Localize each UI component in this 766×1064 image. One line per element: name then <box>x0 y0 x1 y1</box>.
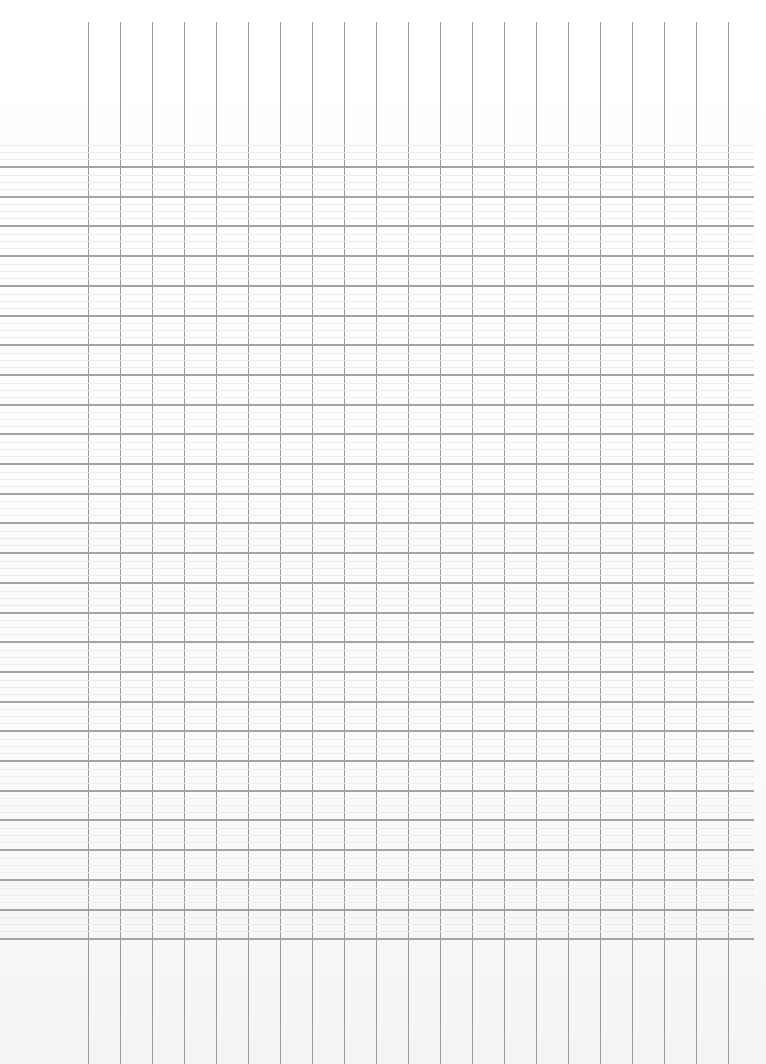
bleed-through-line <box>0 902 754 903</box>
bleed-through-line <box>0 776 754 777</box>
grid-column-line <box>504 22 505 1064</box>
bleed-through-line <box>0 353 754 354</box>
bleed-through-line <box>0 561 754 562</box>
bleed-through-line <box>0 308 754 309</box>
bleed-through-line <box>0 301 754 302</box>
bleed-through-line <box>0 657 754 658</box>
grid-row-line <box>0 255 754 257</box>
bleed-through-line <box>0 248 754 249</box>
bleed-through-line <box>0 650 754 651</box>
bleed-through-line <box>0 753 754 754</box>
bleed-through-line <box>0 842 754 843</box>
grid-column-line <box>248 22 249 1064</box>
bleed-through-line <box>0 872 754 873</box>
bleed-through-line <box>0 924 754 925</box>
grid-row-line <box>0 433 754 435</box>
bleed-through-line <box>0 449 754 450</box>
grid-column-line <box>536 22 537 1064</box>
bleed-through-line <box>0 798 754 799</box>
bleed-through-line <box>0 634 754 635</box>
grid-column-line <box>184 22 185 1064</box>
bleed-through-line <box>0 182 754 183</box>
bleed-through-line <box>0 218 754 219</box>
grid-column-line <box>600 22 601 1064</box>
bleed-through-line <box>0 746 754 747</box>
bleed-through-line <box>0 709 754 710</box>
grid-row-line <box>0 582 754 584</box>
grid-column-line <box>664 22 665 1064</box>
bleed-through-line <box>0 337 754 338</box>
grid-row-line <box>0 166 754 168</box>
bleed-through-line <box>0 294 754 295</box>
bleed-through-line <box>0 145 754 146</box>
bleed-through-line <box>0 605 754 606</box>
bleed-through-line <box>0 828 754 829</box>
grid-sheet <box>0 0 766 1064</box>
grid-column-line <box>88 22 89 1064</box>
bleed-through-line <box>0 360 754 361</box>
bleed-through-line <box>0 783 754 784</box>
bleed-through-line <box>0 234 754 235</box>
grid-row-line <box>0 879 754 881</box>
bleed-through-line <box>0 264 754 265</box>
bleed-through-line <box>0 211 754 212</box>
bleed-through-line <box>0 390 754 391</box>
grid-column-line <box>120 22 121 1064</box>
bleed-through-line <box>0 278 754 279</box>
grid-row-line <box>0 285 754 287</box>
grid-row-line <box>0 790 754 792</box>
bleed-through-line <box>0 917 754 918</box>
grid-column-line <box>312 22 313 1064</box>
bleed-through-line <box>0 204 754 205</box>
bleed-through-line <box>0 383 754 384</box>
bleed-through-line <box>0 241 754 242</box>
bleed-through-line <box>0 508 754 509</box>
grid-row-line <box>0 849 754 851</box>
bleed-through-line <box>0 687 754 688</box>
grid-row-line <box>0 671 754 673</box>
bleed-through-line <box>0 538 754 539</box>
grid-row-line <box>0 196 754 198</box>
bleed-through-line <box>0 568 754 569</box>
grid-row-line <box>0 404 754 406</box>
grid-row-line <box>0 374 754 376</box>
grid-row-line <box>0 344 754 346</box>
grid-column-line <box>376 22 377 1064</box>
bleed-through-line <box>0 271 754 272</box>
bleed-through-line <box>0 175 754 176</box>
bleed-through-line <box>0 664 754 665</box>
grid-row-line <box>0 909 754 911</box>
bleed-through-line <box>0 812 754 813</box>
grid-row-line <box>0 315 754 317</box>
bleed-through-line <box>0 627 754 628</box>
grid-column-line <box>280 22 281 1064</box>
bleed-through-line <box>0 397 754 398</box>
grid-row-line <box>0 701 754 703</box>
grid-column-line <box>568 22 569 1064</box>
bleed-through-line <box>0 152 754 153</box>
grid-row-line <box>0 938 754 940</box>
bleed-through-line <box>0 531 754 532</box>
grid-row-line <box>0 641 754 643</box>
bleed-through-line <box>0 442 754 443</box>
grid-row-line <box>0 493 754 495</box>
bleed-through-line <box>0 805 754 806</box>
bleed-through-line <box>0 189 754 190</box>
bleed-through-line <box>0 367 754 368</box>
bleed-through-line <box>0 323 754 324</box>
bleed-through-line <box>0 456 754 457</box>
bleed-through-line <box>0 865 754 866</box>
bleed-through-line <box>0 888 754 889</box>
grid-row-line <box>0 819 754 821</box>
bleed-through-line <box>0 426 754 427</box>
bleed-through-line <box>0 419 754 420</box>
bleed-through-line <box>0 515 754 516</box>
bleed-through-line <box>0 472 754 473</box>
bleed-through-line <box>0 479 754 480</box>
bleed-through-line <box>0 620 754 621</box>
grid-row-line <box>0 225 754 227</box>
bleed-through-line <box>0 575 754 576</box>
bleed-through-line <box>0 680 754 681</box>
bleed-through-line <box>0 769 754 770</box>
bleed-through-line <box>0 895 754 896</box>
